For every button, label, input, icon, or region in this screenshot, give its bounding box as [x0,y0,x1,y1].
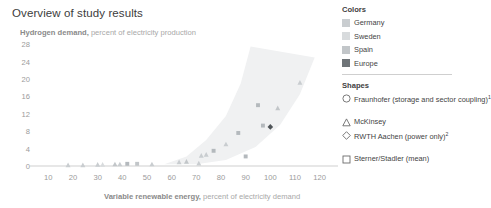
legend-shape-item[interactable]: Sterner/Stadler (mean) [342,154,454,164]
data-point-marker [112,162,117,167]
footnote-marker: 2 [445,131,448,137]
legend-shape-label: Sterner/Stadler (mean) [354,154,429,164]
x-axis-title-norm: percent of electricity demand [201,192,300,201]
uncertainty-band [164,47,314,165]
y-axis-tick-label: 12 [22,110,30,119]
data-point-marker [66,163,71,168]
plot-canvas: 0481216202428102030405060708090100110120 [0,0,340,208]
footnote-marker: 1 [488,94,491,100]
legend-color-label: Germany [354,18,384,27]
legend-shape-label: McKinsey [354,117,386,127]
legend-color-item[interactable]: Europe [342,58,378,69]
data-point-marker [212,149,216,153]
x-axis-tick-label: 50 [143,173,151,182]
legend-color-swatch [342,32,350,40]
legend-colors-heading: Colors [342,5,366,14]
x-axis-tick-label: 20 [69,173,77,182]
data-point-marker [236,131,240,135]
legend-color-label: Europe [354,59,378,68]
y-axis-tick-label: 8 [26,127,30,136]
x-axis-tick-label: 100 [264,173,277,182]
y-axis-tick-label: 0 [26,162,30,171]
legend-shape-label: Fraunhofer (storage and sector coupling)… [354,93,491,105]
legend-color-label: Sweden [354,32,381,41]
data-point-marker [95,162,100,167]
data-point-marker [149,162,154,167]
x-axis-tick-label: 110 [289,173,301,182]
x-axis-tick-label: 60 [167,173,175,182]
x-axis-tick-label: 30 [93,173,101,182]
y-axis-tick-label: 16 [22,92,30,101]
x-axis-tick-label: 10 [44,173,52,182]
square-icon [342,155,351,164]
x-axis-title-emph: Variable renewable energy, [104,192,201,201]
x-axis-tick-label: 120 [313,173,326,182]
legend-color-item[interactable]: Germany [342,17,384,28]
y-axis-tick-label: 24 [22,58,30,67]
legend-color-swatch [342,19,350,27]
legend-color-item[interactable]: Sweden [342,31,381,42]
legend-color-label: Spain [354,45,373,54]
x-axis-tick-label: 80 [217,173,225,182]
data-point-marker [80,163,85,168]
data-point-marker [244,154,248,158]
x-axis-tick-label: 70 [192,173,200,182]
data-point-marker [100,162,105,167]
x-axis-tick-label: 40 [118,173,126,182]
legend-color-swatch [342,59,350,67]
diamond-icon [342,131,351,140]
y-axis-tick-label: 4 [26,145,30,154]
x-axis-title: Variable renewable energy, percent of el… [104,192,300,201]
circle-icon [342,94,351,103]
data-point-marker [117,162,122,167]
data-point-marker [261,124,265,128]
data-point-marker [256,103,260,107]
triangle-icon [342,118,351,127]
legend-shape-item[interactable]: RWTH Aachen (power only)2 [342,130,454,142]
y-axis-tick-label: 28 [22,40,30,49]
x-axis-tick-label: 90 [241,173,249,182]
legend-shapes-heading: Shapes [342,81,369,90]
y-axis-tick-label: 20 [22,75,30,84]
legend-divider [342,74,452,75]
data-point-marker [135,162,139,166]
chart-legend: Colors GermanySwedenSpainEurope Shapes F… [340,0,455,208]
legend-shape-label: RWTH Aachen (power only)2 [354,130,448,142]
scatter-plot: 0481216202428102030405060708090100110120 [0,0,340,208]
legend-shape-item[interactable]: Fraunhofer (storage and sector coupling)… [342,93,454,105]
legend-color-item[interactable]: Spain [342,44,373,55]
legend-color-swatch [342,46,350,54]
legend-shape-item[interactable]: McKinsey [342,117,454,127]
data-point-marker [125,162,129,166]
